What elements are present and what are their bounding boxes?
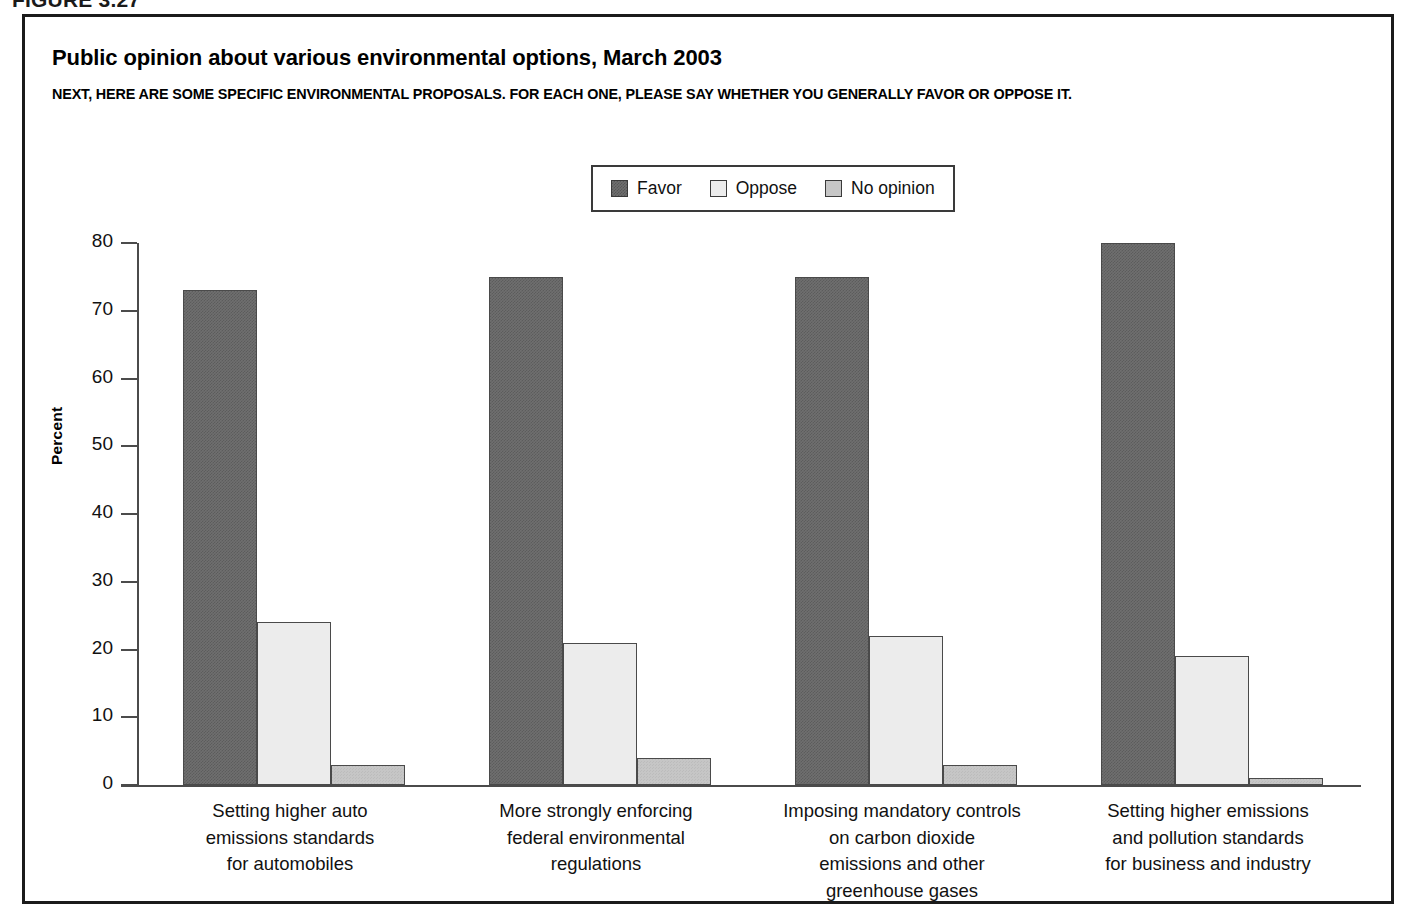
legend-item-favor[interactable]: Favor xyxy=(611,178,682,199)
y-axis-tick xyxy=(121,581,137,583)
y-axis-tick xyxy=(121,378,137,380)
y-axis-tick-label: 20 xyxy=(59,637,113,659)
y-axis-tick xyxy=(121,242,137,244)
y-axis-tick xyxy=(121,445,137,447)
x-axis-category-label-3: Imposing mandatory controlson carbon dio… xyxy=(729,798,1075,904)
legend-swatch-icon xyxy=(710,180,727,197)
bar-no-opinion-group-4[interactable] xyxy=(1249,778,1323,785)
y-axis-tick xyxy=(121,513,137,515)
bar-no-opinion-group-3[interactable] xyxy=(943,765,1017,785)
y-axis-tick xyxy=(121,784,137,786)
y-axis-title: Percent xyxy=(48,407,66,465)
legend-label: No opinion xyxy=(851,178,935,199)
legend-label: Oppose xyxy=(736,178,797,199)
y-axis-tick-label: 40 xyxy=(59,501,113,523)
figure-number: FIGURE 3.27 xyxy=(12,0,140,12)
y-axis-tick-label: 80 xyxy=(59,230,113,252)
bar-no-opinion-group-1[interactable] xyxy=(331,765,405,785)
legend-item-no-opinion[interactable]: No opinion xyxy=(825,178,935,199)
bar-favor-group-4[interactable] xyxy=(1101,243,1175,785)
y-axis-tick xyxy=(121,310,137,312)
y-axis-tick-label: 70 xyxy=(59,298,113,320)
bar-oppose-group-1[interactable] xyxy=(257,622,331,785)
legend-label: Favor xyxy=(637,178,682,199)
y-axis-tick-label: 10 xyxy=(59,704,113,726)
bar-favor-group-1[interactable] xyxy=(183,290,257,785)
bar-oppose-group-2[interactable] xyxy=(563,643,637,785)
y-axis-tick-label: 30 xyxy=(59,569,113,591)
bar-favor-group-2[interactable] xyxy=(489,277,563,785)
y-axis-tick-label: 0 xyxy=(59,772,113,794)
x-axis-category-label-1: Setting higher autoemissions standardsfo… xyxy=(117,798,463,878)
y-axis-tick-label: 50 xyxy=(59,433,113,455)
x-axis-line xyxy=(121,785,1361,787)
y-axis-tick xyxy=(121,649,137,651)
y-axis-tick xyxy=(121,716,137,718)
legend-swatch-icon xyxy=(611,180,628,197)
bar-oppose-group-4[interactable] xyxy=(1175,656,1249,785)
chart-subtitle: NEXT, HERE ARE SOME SPECIFIC ENVIRONMENT… xyxy=(52,86,1072,102)
chart-title: Public opinion about various environment… xyxy=(52,45,722,71)
bar-oppose-group-3[interactable] xyxy=(869,636,943,785)
bar-favor-group-3[interactable] xyxy=(795,277,869,785)
chart-legend: FavorOpposeNo opinion xyxy=(591,165,955,212)
y-axis-tick-label: 60 xyxy=(59,366,113,388)
x-axis-category-label-4: Setting higher emissionsand pollution st… xyxy=(1035,798,1381,878)
bar-no-opinion-group-2[interactable] xyxy=(637,758,711,785)
x-axis-category-label-2: More strongly enforcingfederal environme… xyxy=(423,798,769,878)
legend-item-oppose[interactable]: Oppose xyxy=(710,178,797,199)
plot-area: 01020304050607080 xyxy=(137,243,1361,785)
y-axis-line xyxy=(137,243,139,785)
legend-swatch-icon xyxy=(825,180,842,197)
